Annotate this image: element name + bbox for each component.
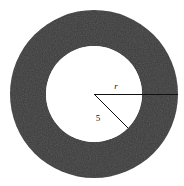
annulus-diagram: r 5 [0,0,184,186]
inner-radius-label: 5 [96,113,101,123]
outer-radius-label: r [114,81,118,91]
annulus-figure: r 5 [0,0,184,186]
